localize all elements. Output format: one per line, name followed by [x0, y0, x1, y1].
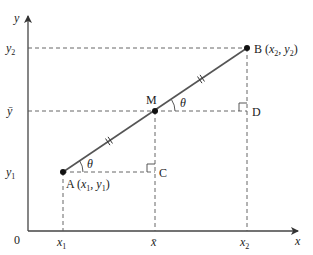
x-axis-label: x	[294, 234, 301, 248]
y1-tick-label: y1	[5, 165, 15, 181]
angle-arc-at-a	[80, 161, 83, 172]
right-angle-mark-d	[239, 103, 247, 111]
xbar-tick-label: x̄	[150, 235, 157, 249]
y2-tick-label: y2	[5, 41, 15, 57]
right-angle-mark-c	[147, 164, 155, 172]
angle-theta-at-a: θ	[87, 157, 93, 171]
angle-arc-at-m	[172, 100, 175, 111]
ybar-tick-label: ȳ	[6, 104, 13, 118]
point-m	[152, 108, 158, 114]
point-d-label: D	[252, 105, 261, 119]
point-b-label: B (x2, y2)	[254, 42, 298, 58]
midpoint-diagram: y x 0 y2 ȳ y1 x1 x̄ x2 A (x1, y1) M B (x…	[0, 0, 313, 255]
angle-theta-at-m: θ	[180, 96, 186, 110]
point-a	[60, 169, 66, 175]
point-b	[244, 45, 250, 51]
point-c-label: C	[159, 166, 167, 180]
y-axis-label: y	[13, 11, 20, 25]
x2-tick-label: x2	[239, 235, 249, 251]
origin-label: 0	[14, 233, 20, 247]
point-a-label: A (x1, y1)	[66, 177, 110, 193]
x1-tick-label: x1	[56, 235, 66, 251]
point-m-label: M	[146, 93, 157, 107]
